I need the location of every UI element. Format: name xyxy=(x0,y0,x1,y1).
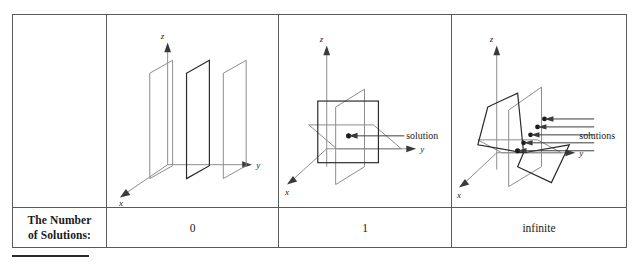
x-axis xyxy=(465,153,497,183)
x-axis-arrowhead xyxy=(120,189,130,197)
z-axis-label: z xyxy=(319,34,324,44)
solutions-table: z y x xyxy=(12,14,627,248)
plane-1 xyxy=(150,60,173,178)
parallel-planes-figure: z y x xyxy=(107,15,278,207)
footnote-separator-rule xyxy=(12,255,89,257)
number-of-solutions-label: The Number of Solutions: xyxy=(28,213,92,242)
y-axis-label: y xyxy=(578,148,583,158)
x-axis xyxy=(127,165,168,193)
plane-2 xyxy=(187,60,210,178)
z-axis-label: z xyxy=(160,31,165,41)
point-solution-figure: solution z y x xyxy=(279,15,451,207)
plane-3 xyxy=(223,60,246,178)
z-axis-label: z xyxy=(489,34,494,44)
number-of-solutions-label-line2: of Solutions: xyxy=(28,229,91,241)
diagram-cell-infinite-solutions: solutions z y x xyxy=(451,15,626,207)
z-axis-arrowhead xyxy=(164,42,171,52)
number-of-solutions-label-cell: The Number of Solutions: xyxy=(13,208,106,247)
solution-callout-label: solution xyxy=(406,130,438,141)
x-axis-label: x xyxy=(284,187,289,197)
diagram-cell-one-solution: solution z y x xyxy=(278,15,451,207)
diagram-row-label-cell xyxy=(13,15,106,207)
number-of-solutions-label-line1: The Number xyxy=(28,214,92,226)
solution-count-cell-one: 1 xyxy=(278,208,451,247)
table-row-diagrams: z y x xyxy=(13,15,626,207)
solution-count-infinite: infinite xyxy=(522,222,555,234)
solution-count-cell-none: 0 xyxy=(106,208,278,247)
solution-count-none: 0 xyxy=(190,222,196,234)
solution-count-cell-infinite: infinite xyxy=(451,208,626,247)
solution-count-one: 1 xyxy=(362,222,368,234)
y-axis-arrowhead xyxy=(406,145,416,152)
x-axis xyxy=(293,149,327,180)
table-row-counts: The Number of Solutions: 0 1 infinite xyxy=(13,207,626,247)
solutions-callout-label: solutions xyxy=(579,130,615,141)
x-axis-label: x xyxy=(456,190,461,200)
page-root: z y x xyxy=(0,0,640,266)
slanted-plane xyxy=(509,87,542,186)
y-axis-label: y xyxy=(255,160,260,170)
x-axis-label: x xyxy=(118,198,123,207)
line-solutions-figure: solutions z y x xyxy=(452,15,626,207)
z-axis-arrowhead xyxy=(323,45,330,55)
z-axis-arrowhead xyxy=(493,45,500,55)
y-axis-label: y xyxy=(419,144,424,154)
diagram-cell-no-solution: z y x xyxy=(106,15,278,207)
